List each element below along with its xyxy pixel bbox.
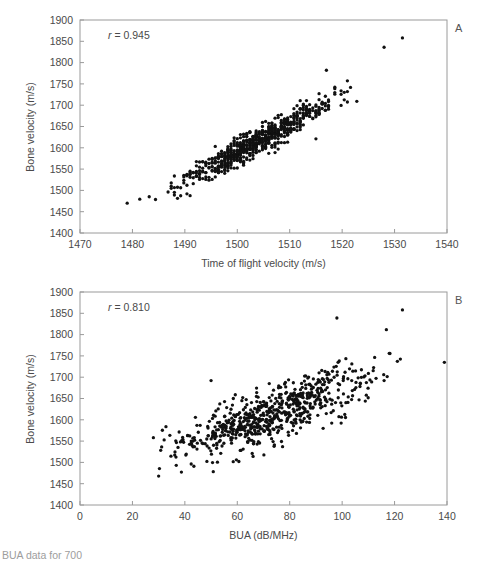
- svg-text:1750: 1750: [50, 350, 74, 362]
- svg-text:1450: 1450: [50, 206, 74, 218]
- svg-text:1510: 1510: [278, 238, 302, 250]
- svg-text:1450: 1450: [50, 478, 74, 490]
- scatter-panel-a: A Bone velocity (m/s) Time of flight vel…: [0, 0, 479, 272]
- scatter-panel-b: B Bone velocity (m/s) BUA (dB/MHz) 14001…: [0, 272, 479, 550]
- svg-text:1700: 1700: [50, 99, 74, 111]
- svg-text:1400: 1400: [50, 499, 74, 511]
- plot-area-a: 1400145015001550160016501700175018001850…: [0, 0, 479, 272]
- svg-text:1400: 1400: [50, 227, 74, 239]
- svg-text:1600: 1600: [50, 414, 74, 426]
- svg-text:1800: 1800: [50, 328, 74, 340]
- svg-text:1650: 1650: [50, 392, 74, 404]
- svg-text:1550: 1550: [50, 435, 74, 447]
- svg-text:80: 80: [284, 510, 296, 522]
- svg-text:1490: 1490: [173, 238, 197, 250]
- svg-text:1900: 1900: [50, 286, 74, 298]
- svg-text:1900: 1900: [50, 14, 74, 26]
- svg-text:1800: 1800: [50, 56, 74, 68]
- figure-container: A Bone velocity (m/s) Time of flight vel…: [0, 0, 479, 563]
- svg-text:r = 0.810: r = 0.810: [108, 301, 150, 313]
- svg-text:1700: 1700: [50, 371, 74, 383]
- svg-text:20: 20: [127, 510, 139, 522]
- svg-text:1500: 1500: [50, 184, 74, 196]
- plot-area-b: 1400145015001550160016501700175018001850…: [0, 272, 479, 550]
- svg-text:1850: 1850: [50, 35, 74, 47]
- svg-text:1530: 1530: [383, 238, 407, 250]
- svg-text:1550: 1550: [50, 163, 74, 175]
- svg-text:1470: 1470: [68, 238, 92, 250]
- svg-text:120: 120: [386, 510, 404, 522]
- svg-text:1500: 1500: [50, 456, 74, 468]
- svg-text:40: 40: [179, 510, 191, 522]
- figure-caption-strip: BUA data for 700: [0, 550, 479, 563]
- svg-text:0: 0: [77, 510, 83, 522]
- svg-text:1600: 1600: [50, 142, 74, 154]
- figure-caption-partial: BUA data for 700: [2, 550, 82, 561]
- svg-text:60: 60: [231, 510, 243, 522]
- svg-text:1480: 1480: [121, 238, 145, 250]
- svg-text:1500: 1500: [226, 238, 250, 250]
- svg-text:1750: 1750: [50, 78, 74, 90]
- svg-text:r = 0.945: r = 0.945: [108, 29, 150, 41]
- scatter-points: [126, 36, 405, 205]
- svg-text:1850: 1850: [50, 307, 74, 319]
- svg-text:1650: 1650: [50, 120, 74, 132]
- svg-text:140: 140: [438, 510, 456, 522]
- scatter-points: [152, 308, 446, 477]
- svg-text:1520: 1520: [330, 238, 354, 250]
- svg-text:100: 100: [333, 510, 351, 522]
- svg-text:1540: 1540: [435, 238, 459, 250]
